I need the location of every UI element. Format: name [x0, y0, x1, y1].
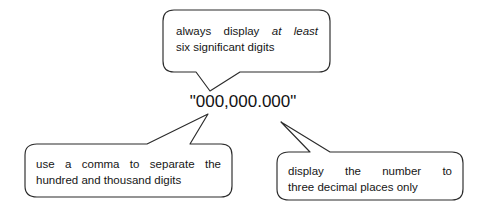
diagram-canvas: always display at least six significant …	[0, 0, 486, 211]
callout-bottom-right-line-1: display the number to	[288, 163, 452, 179]
callout-top-line-1: always display at least	[176, 23, 318, 39]
callout-bottom-left-line-1: use a comma to separate the	[36, 156, 221, 172]
callout-bottom-right-line-2: three decimal places only	[288, 179, 452, 195]
callout-bottom-left-line-2: hundred and thousand digits	[36, 172, 221, 188]
format-string-label: "000,000.000"	[0, 92, 486, 112]
callout-top-line-2: six significant digits	[176, 39, 318, 55]
callout-top-line-1-prefix: always display	[176, 25, 272, 37]
callout-bottom-left-text: use a comma to separate the hundred and …	[36, 156, 221, 188]
callout-bottom-right-text: display the number to three decimal plac…	[288, 163, 452, 195]
callout-top-text: always display at least six significant …	[176, 23, 318, 55]
callout-top-line-1-emphasis: at least	[272, 25, 318, 37]
